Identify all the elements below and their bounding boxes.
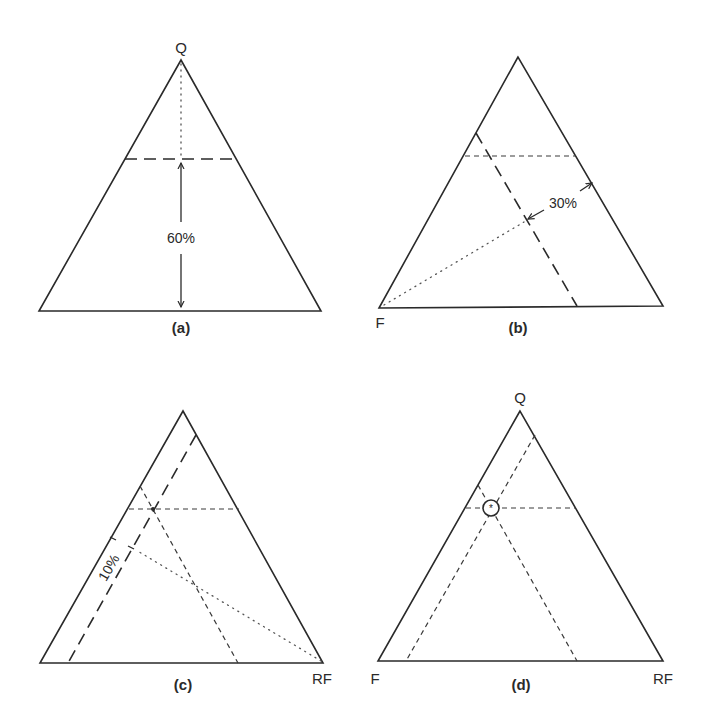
panel-caption: (a) [172,319,190,336]
panel-d: * Q F RF (d) [370,389,673,693]
vertex-label-f: F [370,670,379,687]
triangle-outline [39,60,321,311]
arrow-left [528,210,544,219]
vertex-label-rf: RF [653,670,673,687]
thirty-percent-line [476,133,577,306]
vertex-label-q: Q [175,39,187,56]
thirty-percent-line [140,486,238,663]
percent-label: 60% [167,230,195,246]
dotted-guide [136,550,321,661]
dotted-guide [384,222,524,305]
triangle-outline [379,57,663,308]
vertex-label-rf: RF [312,670,332,687]
panel-caption: (d) [511,676,530,693]
vertex-label-f: F [375,314,384,331]
percent-label: 30% [549,195,577,211]
panel-caption: (c) [174,676,192,693]
panel-a: 60% Q (a) [39,39,321,336]
tick-mark [128,546,134,549]
ternary-figure: 60% Q (a) 30% F (b) 10% RF (c) [0,0,709,721]
triangle-outline [378,411,663,661]
panel-b: 30% F (b) [375,57,663,336]
ten-percent-line [406,435,535,661]
ten-percent-line [68,435,196,663]
panel-c: 10% RF (c) [40,411,332,693]
percent-label: 10% [95,551,123,583]
triangle-outline [40,411,323,663]
panel-caption: (b) [508,319,527,336]
vertex-label-q: Q [514,389,526,406]
arrow-right [580,183,592,191]
plotted-point-marker: * [489,503,493,514]
intersection-dot [151,507,155,511]
